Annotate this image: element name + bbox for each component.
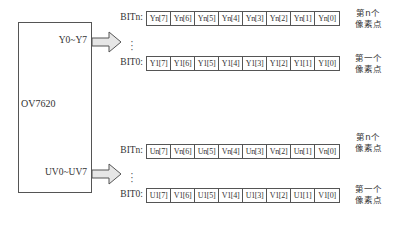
bit-label: BIT0: xyxy=(101,57,143,67)
bit-label: BIT0: xyxy=(101,189,143,199)
register-cell: V1[2] xyxy=(267,189,291,202)
pixel-label: 第n个 像素点 xyxy=(352,132,384,154)
pixel-label: 第n个 像素点 xyxy=(352,8,384,30)
pixel-label-line1: 第一个 xyxy=(352,184,384,195)
register-cell: Y1[0] xyxy=(315,57,339,70)
register-cell: Y1[5] xyxy=(195,57,219,70)
arrow-right-icon xyxy=(92,31,122,53)
pixel-label-line1: 第一个 xyxy=(352,53,384,64)
register-cell: Vn[2] xyxy=(267,145,291,158)
arrow-right-icon xyxy=(92,163,122,185)
register-cell: U1[3] xyxy=(243,189,267,202)
pixel-label-line2: 像素点 xyxy=(352,64,384,75)
register-cell: Un[5] xyxy=(195,145,219,158)
register-cell: Yn[0] xyxy=(315,12,339,25)
register-row-yn: Yn[7] Yn[6] Yn[5] Yn[4] Yn[3] Yn[2] Yn[1… xyxy=(146,11,340,26)
register-cell: Yn[1] xyxy=(291,12,315,25)
pixel-label-line2: 像素点 xyxy=(352,143,384,154)
register-cell: U1[5] xyxy=(195,189,219,202)
register-cell: Yn[6] xyxy=(171,12,195,25)
register-cell: U1[7] xyxy=(147,189,171,202)
register-cell: Yn[7] xyxy=(147,12,171,25)
chip-name: OV7620 xyxy=(21,98,55,109)
register-cell: Y1[3] xyxy=(243,57,267,70)
register-cell: V1[0] xyxy=(315,189,339,202)
pixel-label-line2: 像素点 xyxy=(352,195,384,206)
pixel-label: 第一个 像素点 xyxy=(352,184,384,206)
register-cell: Y1[7] xyxy=(147,57,171,70)
register-cell: Y1[6] xyxy=(171,57,195,70)
register-row-uvn: Un[7] Vn[6] Un[5] Vn[4] Un[3] Vn[2] Un[1… xyxy=(146,144,340,159)
register-cell: Vn[0] xyxy=(315,145,339,158)
pixel-label: 第一个 像素点 xyxy=(352,53,384,75)
register-cell: Un[1] xyxy=(291,145,315,158)
bit-label: BITn: xyxy=(101,145,143,155)
register-row-y1: Y1[7] Y1[6] Y1[5] Y1[4] Y1[3] Y1[2] Y1[1… xyxy=(146,56,340,71)
register-cell: Vn[4] xyxy=(219,145,243,158)
register-cell: Y1[2] xyxy=(267,57,291,70)
register-cell: Yn[2] xyxy=(267,12,291,25)
pixel-label-line2: 像素点 xyxy=(352,19,384,30)
pixel-label-line1: 第n个 xyxy=(352,8,384,19)
register-cell: Vn[6] xyxy=(171,145,195,158)
pixel-label-line1: 第n个 xyxy=(352,132,384,143)
register-cell: Un[3] xyxy=(243,145,267,158)
register-cell: Un[7] xyxy=(147,145,171,158)
ellipsis-vertical: ··· xyxy=(129,172,135,184)
register-cell: V1[4] xyxy=(219,189,243,202)
register-row-uv1: U1[7] V1[6] U1[5] V1[4] U1[3] V1[2] U1[1… xyxy=(146,188,340,203)
register-cell: Yn[4] xyxy=(219,12,243,25)
register-cell: Y1[4] xyxy=(219,57,243,70)
bit-label: BITn: xyxy=(101,12,143,22)
register-cell: Y1[1] xyxy=(291,57,315,70)
register-cell: Yn[5] xyxy=(195,12,219,25)
port-label-uv: UV0~UV7 xyxy=(27,167,87,177)
ellipsis-vertical: ··· xyxy=(129,40,135,52)
register-cell: V1[6] xyxy=(171,189,195,202)
register-cell: Yn[3] xyxy=(243,12,267,25)
register-cell: U1[1] xyxy=(291,189,315,202)
port-label-y: Y0~Y7 xyxy=(27,35,87,45)
